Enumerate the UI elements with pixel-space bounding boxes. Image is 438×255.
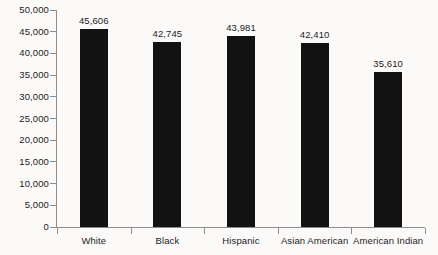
x-axis-line — [56, 227, 425, 228]
x-axis-category-label: Hispanic — [204, 234, 278, 247]
y-axis-tick-mark — [50, 53, 56, 54]
y-axis-tick-label: 5,000 — [0, 199, 49, 211]
y-axis-tick: 15,000 — [0, 156, 64, 168]
y-axis-tick-mark — [50, 140, 56, 141]
bar-value-label: 43,981 — [226, 22, 256, 33]
y-axis-tick-mark — [50, 10, 56, 11]
y-axis-tick-mark — [50, 96, 56, 97]
x-axis-category-label: White — [57, 234, 131, 247]
y-axis-tick-label: 15,000 — [0, 156, 49, 168]
bar-group: 45,606 — [57, 10, 131, 227]
plot-area: 45,60642,74543,98142,41035,610 — [57, 10, 425, 227]
bar-group: 43,981 — [204, 10, 278, 227]
y-axis-tick: 45,000 — [0, 26, 64, 38]
y-axis-tick: 35,000 — [0, 69, 64, 81]
y-axis-tick-mark — [50, 161, 56, 162]
y-axis-tick: 5,000 — [0, 199, 64, 211]
y-axis-tick-label: 50,000 — [0, 4, 49, 16]
y-axis-tick: 0 — [0, 221, 64, 233]
bar-value-label: 45,606 — [79, 15, 109, 26]
y-axis-tick-mark — [50, 75, 56, 76]
y-axis-tick: 20,000 — [0, 134, 64, 146]
y-axis-tick-mark — [50, 118, 56, 119]
y-axis-tick-label: 40,000 — [0, 47, 49, 59]
y-axis-tick: 30,000 — [0, 91, 64, 103]
y-axis-tick: 40,000 — [0, 47, 64, 59]
y-axis-tick: 25,000 — [0, 113, 64, 125]
bar-group: 42,745 — [131, 10, 205, 227]
y-axis-tick-label: 45,000 — [0, 26, 49, 38]
y-axis-tick-label: 25,000 — [0, 113, 49, 125]
x-axis-category-label: Black — [131, 234, 205, 247]
y-axis-tick-label: 35,000 — [0, 69, 49, 81]
bar-group: 35,610 — [351, 10, 425, 227]
bar-value-label: 35,610 — [373, 58, 403, 69]
bar[interactable] — [374, 72, 402, 227]
y-axis-tick-mark — [50, 205, 56, 206]
y-axis-tick-mark — [50, 31, 56, 32]
y-axis-tick-mark — [50, 183, 56, 184]
bar-group: 42,410 — [278, 10, 352, 227]
y-axis-tick: 10,000 — [0, 178, 64, 190]
y-axis-tick-label: 10,000 — [0, 178, 49, 190]
bar[interactable] — [227, 36, 255, 227]
x-axis-tick-mark — [425, 228, 426, 234]
bar[interactable] — [80, 29, 108, 227]
y-axis-tick-label: 20,000 — [0, 134, 49, 146]
x-axis-category-label: American Indian — [351, 234, 425, 247]
y-axis-tick-label: 30,000 — [0, 91, 49, 103]
bar[interactable] — [301, 43, 329, 227]
x-axis-category-label: Asian American — [278, 234, 352, 247]
y-axis-tick-label: 0 — [0, 221, 49, 233]
bar-chart: 05,00010,00015,00020,00025,00030,00035,0… — [0, 0, 438, 255]
bar[interactable] — [153, 42, 181, 228]
bar-value-label: 42,410 — [300, 29, 330, 40]
y-axis-tick: 50,000 — [0, 4, 64, 16]
bar-value-label: 42,745 — [153, 28, 183, 39]
